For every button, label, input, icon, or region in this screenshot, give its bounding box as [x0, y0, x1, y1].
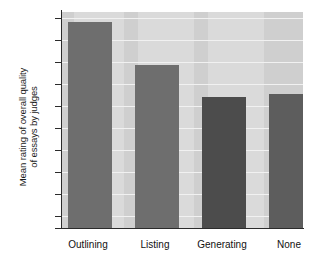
x-tick-label-none: None [247, 239, 314, 251]
y-tick-mark-7 [55, 84, 62, 85]
bar-chart-figure: Mean rating of overall quality of essays… [0, 0, 314, 267]
y-axis-title-line-1: Mean rating of overall quality [17, 68, 28, 186]
y-tick-mark-3 [55, 172, 62, 173]
y-tick-mark-10 [55, 18, 62, 19]
y-tick-mark-2 [55, 194, 62, 195]
x-axis-line [55, 228, 304, 229]
y-tick-mark-6 [55, 106, 62, 107]
y-tick-mark-5 [55, 128, 62, 129]
bar-generating [202, 97, 246, 228]
y-tick-mark-1 [55, 216, 62, 217]
plot-area [62, 12, 303, 228]
y-axis-title: Mean rating of overall quality of essays… [13, 27, 43, 227]
y-tick-mark-4 [55, 150, 62, 151]
bar-listing [135, 65, 179, 228]
y-axis-title-line-2: of essays by judges [28, 86, 39, 168]
bar-outlining [68, 22, 112, 228]
y-tick-mark-8 [55, 62, 62, 63]
bar-none [269, 94, 303, 228]
gridline-10 [62, 18, 303, 19]
y-tick-mark-9 [55, 40, 62, 41]
y-axis-line [61, 10, 62, 229]
